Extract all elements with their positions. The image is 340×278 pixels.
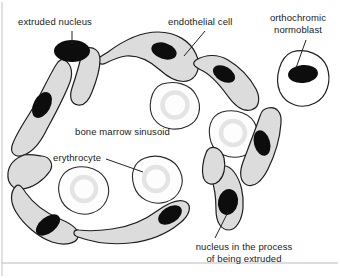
diagram-canvas [0, 0, 340, 278]
endothelial-cell-top-center [98, 32, 198, 81]
label-extruded-nucleus: extruded nucleus [18, 16, 92, 28]
label-nucleus-being-extruded-line1: nucleus in the process [196, 241, 293, 252]
erythrocyte-lower-left [59, 167, 109, 214]
label-endothelial-cell: endothelial cell [168, 16, 232, 28]
endothelial-cell-upper-left [12, 59, 72, 156]
erythrocyte-lower-center [132, 156, 182, 203]
label-orthochromic-normoblast: orthochromic normoblast [258, 12, 338, 35]
endothelial-cell-top-right [194, 56, 259, 111]
orthochromic-normoblast-cell [278, 51, 329, 106]
label-bone-marrow-sinusoid: bone marrow sinusoid [75, 126, 170, 138]
bone-marrow-sinusoid-figure: extruded nucleus endothelial cell orthoc… [0, 0, 340, 278]
label-orthochromic-normoblast-line1: orthochromic [270, 12, 326, 23]
label-orthochromic-normoblast-line2: normoblast [274, 24, 322, 35]
sinusoid-pore-neck [203, 147, 225, 184]
erythrocyte-upper-center [150, 82, 199, 129]
label-nucleus-being-extruded: nucleus in the process of being extruded [176, 241, 312, 264]
label-erythrocyte: erythrocyte [53, 152, 101, 164]
endothelial-cell-left-upper-lobe [8, 155, 52, 190]
label-nucleus-being-extruded-line2: of being extruded [206, 253, 281, 264]
